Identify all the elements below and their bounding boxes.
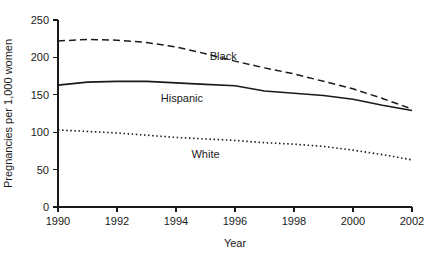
x-tick-label: 1996	[223, 215, 247, 227]
x-tick-label: 1994	[164, 215, 188, 227]
series-line-white	[58, 130, 412, 160]
line-chart: 050100150200250 199019921994199619982000…	[0, 0, 436, 256]
x-tick-label: 1990	[46, 215, 70, 227]
y-tick-label: 100	[31, 126, 49, 138]
x-tick-label: 2002	[400, 215, 424, 227]
x-axis-ticks: 1990199219941996199820002002	[46, 207, 424, 227]
y-axis-ticks: 050100150200250	[31, 14, 58, 213]
series-label-group: BlackHispanicWhite	[161, 50, 237, 160]
y-tick-label: 0	[43, 201, 49, 213]
series-label-white: White	[191, 148, 219, 160]
x-tick-label: 1992	[105, 215, 129, 227]
x-tick-label: 1998	[282, 215, 306, 227]
series-label-hispanic: Hispanic	[161, 92, 204, 104]
chart-container: 050100150200250 199019921994199619982000…	[0, 0, 436, 256]
y-axis-title: Pregnancies per 1,000 women	[2, 39, 14, 188]
y-tick-label: 250	[31, 14, 49, 26]
series-line-hispanic	[58, 81, 412, 110]
y-tick-label: 150	[31, 89, 49, 101]
x-axis-title: Year	[224, 237, 247, 249]
y-tick-label: 50	[37, 164, 49, 176]
axis-group	[58, 20, 412, 207]
x-tick-label: 2000	[341, 215, 365, 227]
y-tick-label: 200	[31, 51, 49, 63]
series-label-black: Black	[210, 50, 237, 62]
